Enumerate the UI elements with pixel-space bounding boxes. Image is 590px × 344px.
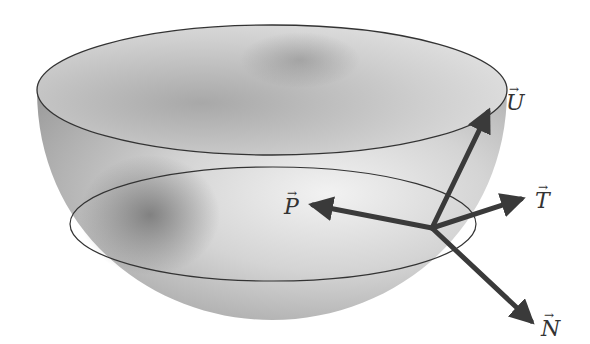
label-P: → P: [284, 196, 299, 218]
bowl-figure: [0, 0, 590, 344]
vector-N-arrow: [432, 228, 531, 321]
label-N: → N: [541, 318, 560, 340]
diagram-canvas: → U → T → P → N: [0, 0, 590, 344]
label-T: → T: [535, 190, 550, 212]
label-U: → U: [506, 92, 525, 114]
